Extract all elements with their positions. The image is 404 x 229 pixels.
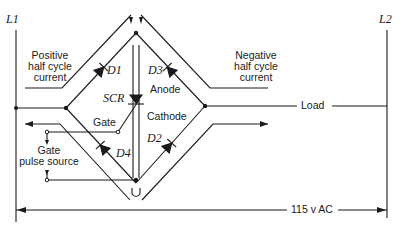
load-label: Load (301, 100, 324, 111)
gate-label: Gate (93, 117, 116, 128)
bottom-node (134, 178, 138, 182)
left-node (64, 106, 68, 110)
top-node (134, 31, 138, 35)
scr-label: SCR (103, 93, 124, 104)
scr-icon (128, 95, 144, 104)
positive-half-cycle-label: Positive half cycle current (22, 50, 78, 83)
d1-label: D1 (107, 65, 122, 76)
d3-label: D3 (148, 65, 163, 76)
voltage-label: 115 v AC (291, 204, 333, 215)
l2-label: L2 (379, 14, 392, 25)
right-node (203, 104, 207, 108)
cathode-label: Cathode (147, 111, 187, 122)
gate-pulse-source-label: Gate pulse source (18, 145, 80, 167)
negative-half-cycle-label: Negative half cycle current (223, 50, 289, 83)
d4-label: D4 (116, 148, 131, 159)
circuit-drawing (0, 0, 404, 229)
l1-label: L1 (6, 14, 19, 25)
anode-label: Anode (150, 84, 180, 95)
d2-label: D2 (147, 133, 162, 144)
l1-node (14, 106, 18, 110)
scr-bridge-diagram: L1 L2 Positive half cycle current Negati… (0, 0, 404, 229)
